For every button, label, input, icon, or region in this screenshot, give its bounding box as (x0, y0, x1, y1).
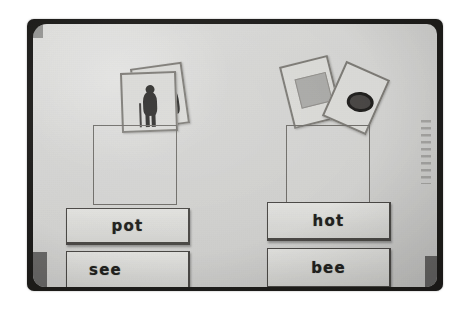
photograph-frame: pot see hot bee (27, 19, 443, 291)
word-card-hot[interactable]: hot (267, 202, 391, 241)
dark-oval-object-icon (346, 91, 375, 114)
picture-pocket-left[interactable] (93, 125, 177, 205)
print-corner-shade-bottom-left (33, 252, 47, 287)
print-corner-shade-top-left (33, 24, 43, 38)
word-card-see-label: see (89, 261, 122, 280)
word-card-hot-label: hot (313, 211, 345, 230)
word-card-pot[interactable]: pot (66, 208, 190, 245)
word-card-bee[interactable]: bee (267, 248, 391, 287)
picture-card-left-front-image (125, 76, 173, 128)
person-body-icon (143, 92, 158, 116)
word-card-bee-label: bee (311, 258, 346, 277)
pocket-chart-board: pot see hot bee (33, 24, 437, 287)
word-card-see[interactable]: see (66, 251, 190, 287)
picture-card-left-front (120, 71, 178, 133)
print-corner-shade-bottom-right (425, 256, 437, 287)
edge-handwriting-annotation (421, 120, 431, 184)
picture-pocket-right[interactable] (286, 125, 370, 205)
picture-card-right-right-image (328, 67, 383, 128)
word-card-pot-label: pot (112, 216, 144, 235)
